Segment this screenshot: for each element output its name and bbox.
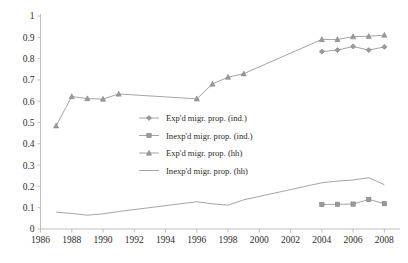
data-point-marker-square (367, 197, 371, 201)
chart-canvas: 10.90.80.70.60.50.40.30.20.1019861988199… (0, 0, 408, 263)
diamond-marker (146, 115, 151, 120)
x-axis-tick-label: 1990 (94, 235, 113, 245)
triangle-marker (241, 71, 246, 76)
diamond-marker (319, 49, 324, 54)
legend-label-0: Exp'd migr. prop. (ind.) (166, 113, 247, 123)
triangle-marker (69, 94, 74, 99)
data-point-marker-square (351, 202, 355, 206)
data-point-marker-diamond (351, 44, 356, 49)
data-point-marker-triangle (54, 123, 59, 128)
diamond-marker (351, 44, 356, 49)
x-axis-tick-label: 2000 (250, 235, 269, 245)
legend-item-1[interactable]: Inexp'd migr. prop. (ind.) (139, 131, 253, 141)
data-point-marker-diamond (335, 47, 340, 52)
legend-item-3[interactable]: Inexp'd migr. prop. (hh) (139, 166, 248, 176)
x-axis-tick-label: 2008 (375, 235, 394, 245)
legend-label-3: Inexp'd migr. prop. (hh) (166, 166, 248, 176)
diamond-marker (335, 47, 340, 52)
legend-label-1: Inexp'd migr. prop. (ind.) (166, 131, 253, 141)
y-axis-tick-label: 0.8 (23, 54, 35, 64)
data-point-marker-square (382, 201, 386, 205)
data-point-marker-square (335, 202, 339, 206)
x-axis-tick-label: 1992 (125, 235, 144, 245)
data-point-marker-triangle (241, 71, 246, 76)
y-axis-tick-label: 0.2 (23, 182, 35, 192)
data-point-marker-square (320, 202, 324, 206)
triangle-marker (210, 81, 215, 86)
y-axis-tick-label: 0.3 (23, 161, 35, 171)
data-point-marker-diamond (366, 47, 371, 52)
square-marker (382, 201, 386, 205)
square-marker (335, 202, 339, 206)
x-axis-tick-label: 2004 (312, 235, 331, 245)
x-axis-tick-label: 2006 (344, 235, 363, 245)
x-axis-tick-label: 1994 (156, 235, 175, 245)
square-marker (367, 197, 371, 201)
series-line-3 (56, 178, 384, 215)
data-point-marker-diamond (382, 44, 387, 49)
legend-item-2[interactable]: Exp'd migr. prop. (hh) (139, 148, 242, 158)
y-axis-tick-label: 0 (30, 224, 35, 234)
triangle-marker (54, 123, 59, 128)
y-axis-tick-label: 0.9 (23, 33, 35, 43)
legend-item-0[interactable]: Exp'd migr. prop. (ind.) (139, 113, 247, 123)
legend-label-2: Exp'd migr. prop. (hh) (166, 148, 242, 158)
x-axis-tick-label: 1996 (187, 235, 206, 245)
diamond-marker (382, 44, 387, 49)
diamond-marker (366, 47, 371, 52)
x-axis-tick-label: 1986 (31, 235, 50, 245)
y-axis-tick-label: 0.7 (23, 75, 35, 85)
square-marker (320, 202, 324, 206)
square-marker (147, 133, 151, 137)
y-axis-tick-label: 0.5 (23, 118, 35, 128)
y-axis-tick-label: 0.4 (23, 139, 35, 149)
square-marker (351, 202, 355, 206)
legend-marker-1 (147, 133, 151, 137)
x-axis-tick-label: 1988 (62, 235, 81, 245)
data-point-marker-diamond (319, 49, 324, 54)
line-chart: 10.90.80.70.60.50.40.30.20.1019861988199… (0, 0, 408, 263)
y-axis-tick-label: 0.1 (23, 203, 35, 213)
x-axis-tick-label: 2002 (281, 235, 300, 245)
x-axis-tick-label: 1998 (219, 235, 238, 245)
data-point-marker-triangle (69, 94, 74, 99)
data-point-marker-triangle (210, 81, 215, 86)
legend-marker-0 (146, 115, 151, 120)
y-axis-tick-label: 0.6 (23, 97, 35, 107)
y-axis-tick-label: 1 (30, 11, 35, 21)
